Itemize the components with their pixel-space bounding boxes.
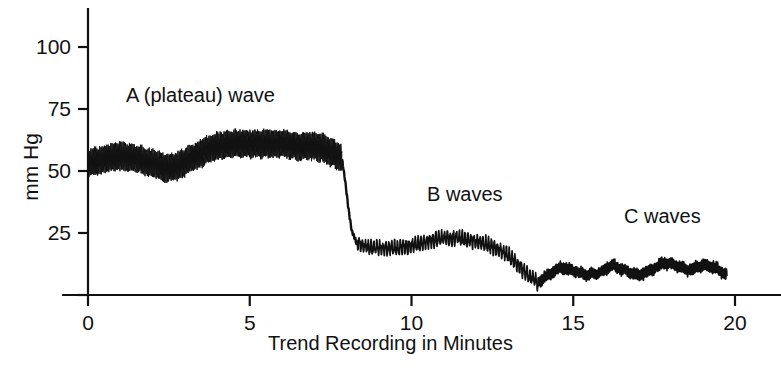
- chart-plot-area: [0, 0, 781, 381]
- annotation-c-waves: C waves: [624, 205, 701, 228]
- waveform-segment-abrupt-fall: [342, 159, 357, 244]
- y-tick-label: 25: [0, 221, 71, 245]
- annotation-a-plateau-wave: A (plateau) wave: [126, 84, 275, 107]
- clipped-caption-text: [0, 370, 781, 381]
- waveform-segment-c-waves: [538, 257, 727, 287]
- waveform-segment-a-plateau-wave: [88, 128, 342, 183]
- y-tick-label: 100: [0, 35, 71, 59]
- x-axis-title: Trend Recording in Minutes: [0, 332, 781, 355]
- annotation-b-waves: B waves: [427, 183, 503, 206]
- y-axis-title: mm Hg: [19, 117, 43, 217]
- waveform-segment-b-waves: [357, 230, 538, 291]
- y-tick-marks: [78, 47, 88, 295]
- x-tick-marks: [88, 295, 735, 306]
- icp-trend-figure: 255075100 05101520 mm Hg Trend Recording…: [0, 0, 781, 381]
